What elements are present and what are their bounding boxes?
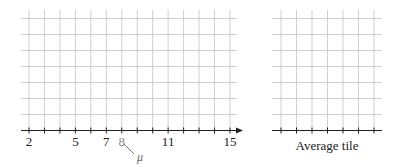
tick-label-5: 5 [72,135,79,148]
tick-label-15: 15 [223,135,236,148]
axis-arrow-icon [236,128,243,134]
tick-label-8: 8 [119,135,126,148]
right-panel-caption: Average tile [296,139,359,152]
tick-label-2: 2 [26,135,33,148]
mu-pointer-line [124,144,134,154]
mu-annotation: μ [137,151,143,163]
tick-label-11: 11 [162,135,175,148]
tick-label-7: 7 [103,135,110,148]
